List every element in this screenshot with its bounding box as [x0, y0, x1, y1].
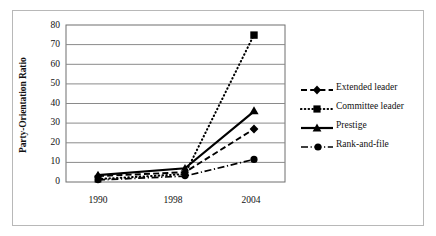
legend-marker-diamond-icon [300, 82, 334, 94]
legend-label-prestige: Prestige [334, 121, 367, 131]
legend-item-extended-leader: Extended leader [300, 78, 424, 97]
legend-label-rank-and-file: Rank-and-file [334, 140, 389, 150]
legend-item-committee-leader: Committee leader [300, 97, 424, 116]
legend-marker-square-icon [300, 101, 334, 113]
chart-legend: Extended leader Committee leader Prestig… [300, 78, 424, 154]
legend-marker-pentagon-icon [300, 139, 334, 151]
legend-item-prestige: Prestige [300, 116, 424, 135]
legend-label-committee-leader: Committee leader [334, 102, 404, 112]
legend-label-extended-leader: Extended leader [334, 83, 397, 93]
legend-marker-triangle-icon [300, 120, 334, 132]
legend-item-rank-and-file: Rank-and-file [300, 135, 424, 154]
plot-area [66, 25, 285, 183]
chart-figure: Party-Orientation Ratio 80 70 60 50 40 3… [0, 0, 436, 236]
